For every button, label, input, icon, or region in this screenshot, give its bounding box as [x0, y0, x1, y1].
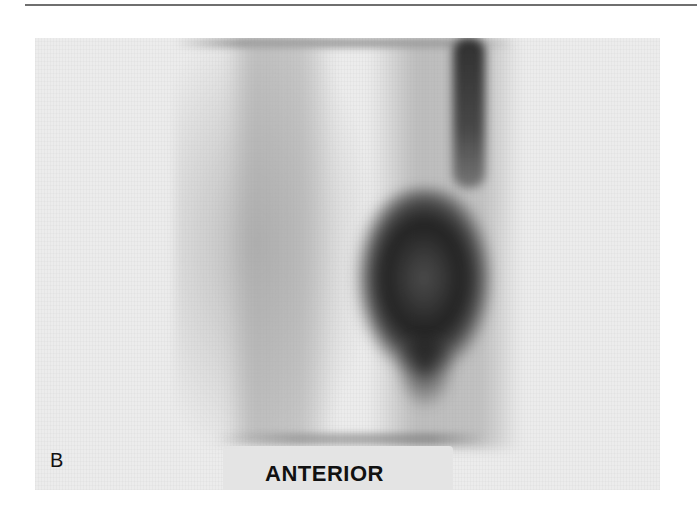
left-limb-uptake-core	[225, 38, 335, 443]
scan-image	[35, 38, 660, 490]
vertical-uptake-streak	[453, 38, 485, 188]
view-label: ANTERIOR	[265, 463, 384, 485]
lesion-lower-pole	[395, 338, 455, 408]
panel-letter: B	[50, 450, 63, 470]
top-divider-rule	[25, 4, 697, 6]
scan-bottom-uptake-band	[215, 433, 485, 445]
